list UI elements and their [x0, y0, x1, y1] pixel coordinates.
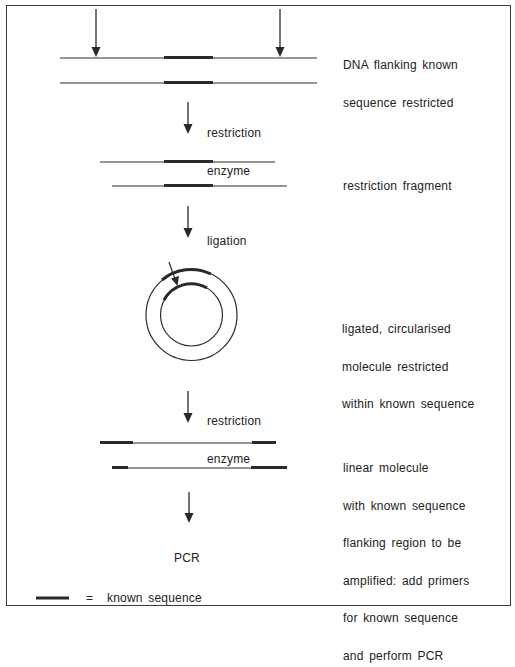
arrow2-line-1: ligation: [207, 235, 247, 248]
arrow1-line-2: enzyme: [207, 165, 261, 178]
step3-circular-molecule: [146, 262, 237, 361]
process-arrow-2: [184, 206, 193, 238]
arrow1-label: restriction enzyme: [207, 102, 261, 190]
step3-description: ligated, circularised molecule restricte…: [342, 298, 474, 423]
step4-line-1: linear molecule: [343, 462, 469, 475]
step4-line-3: flanking region to be: [343, 537, 469, 550]
restriction-site-arrow: [169, 262, 175, 279]
known-sequence-outer-arc: [162, 269, 211, 280]
step1-description: DNA flanking known sequence restricted: [343, 34, 458, 122]
step4-description: linear molecule with known sequence flan…: [343, 437, 469, 667]
arrow3-line-1: restriction: [207, 415, 261, 428]
arrow1-line-1: restriction: [207, 127, 261, 140]
step1-line-1: DNA flanking known: [343, 59, 458, 72]
process-arrow-3: [184, 391, 193, 423]
step4-line-6: and perform PCR: [343, 650, 469, 663]
legend-text: known sequence: [107, 592, 202, 605]
pcr-result-label: PCR: [174, 552, 200, 565]
step3-line-1: ligated, circularised: [342, 323, 474, 336]
arrow3-label: restriction enzyme: [207, 390, 261, 478]
step4-line-4: amplified: add primers: [343, 575, 469, 588]
legend-equals: =: [86, 592, 93, 605]
step3-line-3: within known sequence: [342, 398, 474, 411]
arrow3-line-2: enzyme: [207, 453, 261, 466]
step4-line-2: with known sequence: [343, 500, 469, 513]
step4-line-5: for known sequence: [343, 612, 469, 625]
process-arrow-4: [185, 492, 194, 523]
step1-dna: [60, 9, 317, 83]
step2-description: restriction fragment: [343, 155, 452, 205]
known-sequence-inner-arc: [164, 284, 207, 300]
step2-line-1: restriction fragment: [343, 180, 452, 193]
arrow2-label: ligation: [207, 210, 247, 260]
process-arrow-1: [184, 102, 193, 134]
step3-line-2: molecule restricted: [342, 361, 474, 374]
step1-line-2: sequence restricted: [343, 97, 458, 110]
